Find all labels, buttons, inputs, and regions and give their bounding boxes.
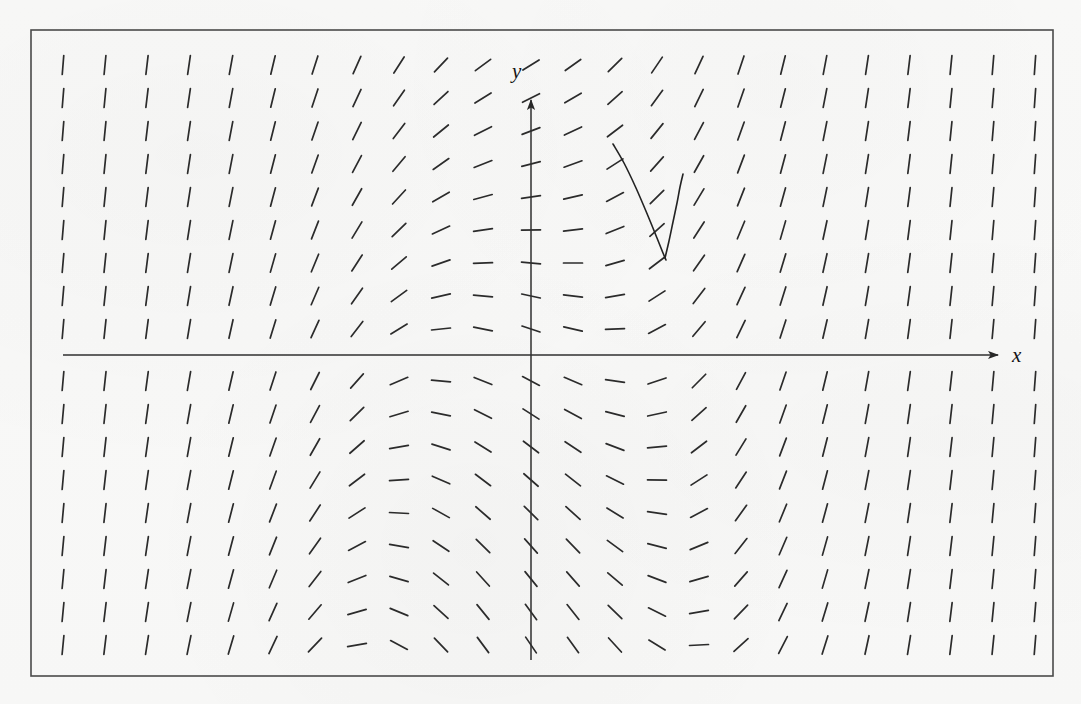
slope-segment — [567, 637, 578, 652]
slope-segment — [564, 161, 582, 167]
slope-segment — [566, 474, 581, 486]
slope-segment — [229, 471, 234, 489]
slope-segment — [62, 405, 64, 424]
slope-segment — [432, 260, 450, 266]
slope-segment — [781, 56, 786, 74]
slope-segment — [229, 320, 233, 339]
slope-segment — [228, 636, 233, 654]
slope-segment — [908, 405, 911, 424]
slope-segment — [229, 537, 234, 555]
slope-segment — [781, 89, 786, 107]
slope-segment — [950, 570, 952, 589]
slope-segment — [434, 92, 448, 105]
slope-segment — [908, 537, 911, 556]
slope-segment — [779, 570, 787, 587]
slope-segment — [992, 254, 994, 273]
slope-segment — [694, 222, 704, 238]
slope-segment — [780, 287, 786, 305]
slope-segment — [992, 405, 994, 424]
slope-segment — [735, 572, 747, 586]
slope-segment — [992, 320, 994, 339]
slope-segment — [229, 372, 233, 391]
slope-segment — [565, 409, 582, 418]
slope-segment — [1034, 287, 1035, 306]
slope-segment — [823, 56, 827, 75]
slope-segment — [269, 570, 276, 588]
slope-segment — [271, 122, 276, 140]
slope-segment — [779, 504, 786, 522]
solution-curve-left-branch — [613, 144, 666, 260]
slope-segment — [738, 188, 745, 206]
slope-segment — [823, 89, 827, 108]
slope-segment — [992, 471, 994, 490]
slope-segment — [950, 221, 952, 240]
slope-segment — [146, 287, 148, 306]
slope-segment — [950, 438, 952, 457]
slope-segment — [865, 504, 869, 523]
slope-segment — [607, 540, 622, 551]
slope-segment — [146, 438, 149, 457]
slope-segment — [433, 541, 449, 552]
slope-segment — [690, 576, 708, 581]
slope-segment — [188, 221, 191, 240]
slope-segment — [1034, 56, 1035, 75]
slope-segment — [649, 291, 665, 301]
slope-segment — [104, 188, 106, 207]
slope-segment — [271, 89, 276, 107]
slope-segment — [475, 474, 490, 485]
slope-segment — [736, 406, 745, 422]
slope-segment — [433, 192, 449, 202]
slope-segment — [433, 508, 450, 517]
slope-segment — [908, 372, 911, 391]
slope-segment — [609, 638, 622, 652]
slope-segment — [1034, 221, 1035, 240]
slope-segment — [606, 380, 625, 383]
slope-segment — [146, 603, 149, 622]
slope-segment — [270, 405, 276, 423]
slope-segment — [434, 606, 448, 619]
slope-segment — [432, 294, 451, 298]
slope-segment — [950, 56, 952, 75]
slope-segment — [780, 471, 787, 489]
slope-segment — [187, 570, 191, 589]
slope-segment — [475, 127, 492, 136]
y-axis-label: y — [510, 59, 522, 83]
slope-segment — [694, 189, 704, 205]
slope-segment — [908, 287, 911, 306]
slope-segment — [992, 89, 994, 108]
slope-segment — [187, 537, 191, 556]
slope-segment — [1034, 537, 1036, 556]
slope-segment — [1034, 122, 1035, 141]
slope-segment — [432, 444, 450, 450]
slope-segment — [229, 122, 233, 141]
slope-segment — [270, 438, 276, 456]
slope-segment — [992, 537, 994, 556]
slope-segment — [865, 287, 868, 306]
slope-segment — [475, 93, 491, 103]
slope-segment — [566, 507, 580, 520]
slope-segment — [432, 380, 451, 382]
slope-segment — [648, 378, 666, 384]
slope-segment — [348, 575, 366, 582]
slope-segment — [1034, 603, 1036, 622]
slope-segment — [351, 374, 364, 388]
slope-segment — [693, 322, 705, 337]
slope-segment — [908, 636, 911, 655]
slope-segment — [823, 438, 828, 456]
slope-segment — [735, 539, 747, 554]
slope-segment — [734, 639, 748, 652]
slope-segment — [908, 254, 910, 273]
slope-segment — [649, 257, 664, 269]
slope-segment — [269, 603, 277, 620]
slope-segment — [865, 636, 869, 655]
slope-segment — [694, 156, 703, 173]
slope-segment — [146, 636, 149, 655]
slope-segment — [312, 155, 318, 173]
slope-segment — [908, 570, 911, 589]
slope-segment — [648, 446, 667, 448]
slope-segment — [390, 544, 409, 547]
slope-segment — [269, 636, 277, 653]
slope-segment — [62, 56, 64, 75]
slope-segment — [188, 89, 191, 108]
slope-segment — [187, 438, 190, 457]
